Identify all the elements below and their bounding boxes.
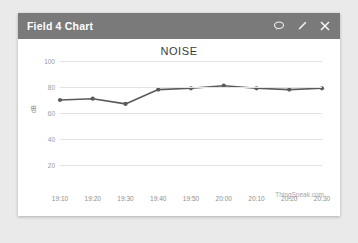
- edit-icon[interactable]: [296, 20, 308, 32]
- x-axis-tick: 19:40: [150, 195, 166, 202]
- gridline: [60, 113, 322, 114]
- header-actions: [273, 20, 331, 32]
- gridline: [60, 61, 322, 62]
- x-axis-tick: 20:10: [248, 195, 264, 202]
- card-title: Field 4 Chart: [27, 20, 93, 32]
- x-axis-tick: 19:30: [117, 195, 133, 202]
- field-chart-card: Field 4 Chart NOISE dB: [18, 13, 340, 216]
- y-axis-tick: 60: [48, 110, 55, 117]
- data-point[interactable]: [156, 88, 160, 92]
- gridline: [60, 165, 322, 166]
- data-point[interactable]: [91, 97, 95, 101]
- y-axis-title: dB: [30, 105, 37, 113]
- data-point[interactable]: [287, 88, 291, 92]
- chart-body: NOISE dB 1008060402019:1019:2019:3019:40…: [18, 39, 340, 216]
- y-axis-tick: 100: [44, 58, 55, 65]
- data-point[interactable]: [58, 98, 62, 102]
- chart-title: NOISE: [18, 45, 340, 57]
- gridline: [60, 87, 322, 88]
- card-header: Field 4 Chart: [18, 13, 340, 39]
- data-point[interactable]: [123, 102, 127, 106]
- x-axis-tick: 19:50: [183, 195, 199, 202]
- x-axis-tick: 20:00: [216, 195, 232, 202]
- y-axis-tick: 20: [48, 162, 55, 169]
- x-axis-tick: 19:20: [85, 195, 101, 202]
- comment-icon[interactable]: [273, 20, 285, 32]
- x-axis-tick: 19:10: [52, 195, 68, 202]
- y-axis-tick: 40: [48, 136, 55, 143]
- close-icon[interactable]: [319, 20, 331, 32]
- gridline: [60, 139, 322, 140]
- y-axis-tick: 80: [48, 84, 55, 91]
- plot-area: 1008060402019:1019:2019:3019:4019:5020:0…: [60, 61, 322, 165]
- watermark: ThingSpeak.com: [275, 191, 324, 198]
